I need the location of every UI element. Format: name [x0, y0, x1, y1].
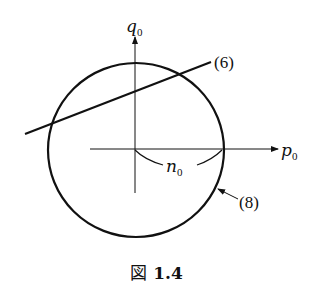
caption-number: 1.4	[153, 263, 183, 283]
circle-pointer-arrow	[218, 189, 238, 199]
q0-axis-label: q0	[126, 16, 143, 38]
figure-caption: 図1.4	[0, 259, 313, 284]
p0-axis-label: p0	[281, 140, 298, 162]
radius-label: n0	[166, 156, 183, 178]
line-6-label: (6)	[214, 53, 234, 72]
circle-8-label: (8)	[239, 193, 259, 212]
radius-arc-right	[197, 150, 222, 165]
radius-arc-left	[135, 150, 163, 165]
line-6	[25, 62, 211, 134]
figure-diagram: q0 p0 n0 (6) (8)	[0, 0, 313, 287]
caption-prefix: 図	[130, 263, 147, 283]
circle-curve-8	[48, 63, 224, 237]
